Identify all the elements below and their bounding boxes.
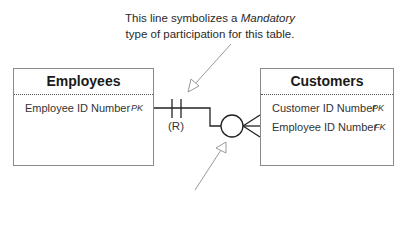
field-key: FK: [374, 118, 386, 137]
field-label: Customer ID Number: [272, 102, 376, 114]
optional-circle-icon: [221, 115, 243, 137]
entity-customers: Customers Customer ID Number PK Employee…: [260, 68, 394, 166]
field-key: PK: [131, 99, 143, 118]
entity-title: Employees: [14, 69, 153, 95]
field-label: Employee ID Number: [25, 102, 130, 114]
entity-title: Customers: [261, 69, 393, 95]
field-row: Employee ID Number PK: [14, 99, 153, 118]
mandatory-pointer-arrow-icon: [188, 44, 231, 92]
field-key: PK: [372, 99, 384, 118]
relationship-label: (R): [168, 120, 184, 132]
field-row: Customer ID Number PK: [261, 99, 393, 118]
field-row: Employee ID Number FK: [261, 118, 393, 137]
entity-employees: Employees Employee ID Number PK: [13, 68, 154, 166]
crows-foot-icon: [243, 115, 260, 137]
field-label: Employee ID Number: [272, 121, 377, 133]
optional-pointer-arrow-icon: [195, 142, 226, 190]
